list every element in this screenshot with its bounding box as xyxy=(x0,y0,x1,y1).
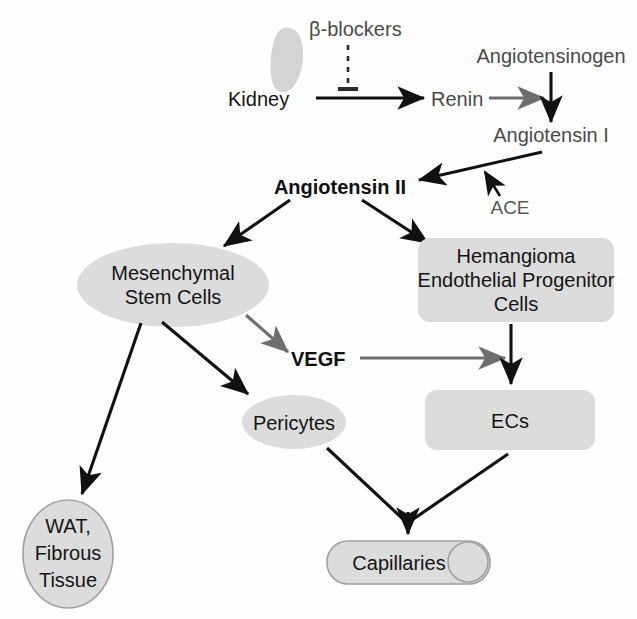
label-wat-line2: Fibrous xyxy=(35,542,102,564)
label-angiotensin-ii: Angiotensin II xyxy=(274,176,406,198)
label-wat-line1: WAT, xyxy=(45,515,91,537)
edge-ace-to-conversion xyxy=(485,172,500,196)
kidney-icon xyxy=(270,28,303,92)
pathway-svg: β-blockers Kidney Renin Angiotensinogen … xyxy=(0,0,637,619)
label-angiotensin-i: Angiotensin I xyxy=(493,124,609,146)
label-beta-blockers: β-blockers xyxy=(309,18,402,40)
edge-msc-to-wat-fibrous xyxy=(82,323,141,494)
label-pericytes: Pericytes xyxy=(253,412,335,434)
node-mesenchymal-stem-cells xyxy=(77,243,269,327)
edge-msc-to-vegf xyxy=(246,315,288,352)
pathway-diagram: β-blockers Kidney Renin Angiotensinogen … xyxy=(0,0,637,619)
capillaries-end-cap xyxy=(448,542,488,582)
label-kidney: Kidney xyxy=(228,88,289,110)
label-hemangioma-line3: Cells xyxy=(494,293,538,315)
label-angiotensinogen: Angiotensinogen xyxy=(476,45,625,67)
label-capillaries: Capillaries xyxy=(352,552,445,574)
edge-angiotensin-ii-to-msc xyxy=(224,200,290,246)
label-msc-line2: Stem Cells xyxy=(125,286,222,308)
edge-ecs-to-capillaries xyxy=(412,454,508,520)
label-hemangioma-line2: Endothelial Progenitor xyxy=(418,269,615,291)
label-ace: ACE xyxy=(490,197,529,218)
label-msc-line1: Mesenchymal xyxy=(111,262,234,284)
label-wat-line3: Tissue xyxy=(39,569,97,591)
label-ecs: ECs xyxy=(491,410,529,432)
label-renin: Renin xyxy=(431,88,483,110)
edge-angiotensin-i-to-angiotensin-ii xyxy=(419,152,542,180)
label-vegf: VEGF xyxy=(291,348,345,370)
edge-angiotensin-ii-to-hemangioma-epc xyxy=(362,200,428,243)
label-hemangioma-line1: Hemangioma xyxy=(457,245,577,267)
edge-pericytes-to-capillaries xyxy=(327,448,404,520)
edge-msc-to-pericytes xyxy=(162,322,248,394)
